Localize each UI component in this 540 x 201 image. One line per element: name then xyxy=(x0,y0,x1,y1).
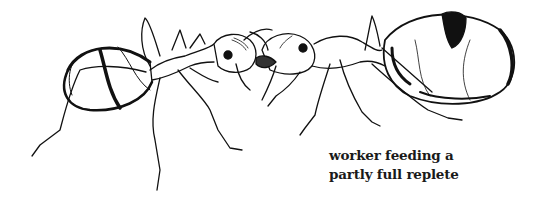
replete-eye xyxy=(299,44,307,52)
figure-caption: worker feeding a partly full replete xyxy=(329,146,459,184)
caption-line-1: worker feeding a xyxy=(329,146,459,165)
replete-head xyxy=(262,34,315,74)
replete-ant xyxy=(250,12,514,135)
worker-ant xyxy=(32,18,272,190)
worker-eye xyxy=(224,51,232,59)
caption-line-2: partly full replete xyxy=(329,165,459,184)
ant-illustration xyxy=(0,0,540,201)
worker-head xyxy=(214,34,256,72)
